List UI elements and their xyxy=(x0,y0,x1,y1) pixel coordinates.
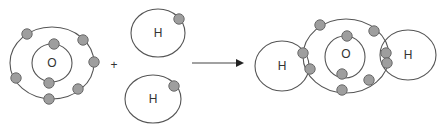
electron-icon xyxy=(381,48,391,58)
reactant-hydrogen-atom-2: H xyxy=(125,75,181,123)
hydrogen-nucleus-label: H xyxy=(278,59,287,73)
hydrogen-nucleus-label: H xyxy=(154,26,163,40)
hydrogen-nucleus-label: H xyxy=(404,48,413,62)
electron-icon xyxy=(305,64,315,74)
electron-icon xyxy=(382,58,392,68)
reaction-arrow xyxy=(192,59,244,67)
electron-icon xyxy=(342,31,352,41)
hydrogen-nucleus-label: H xyxy=(149,92,158,106)
electron-icon xyxy=(337,85,347,95)
electron-icon xyxy=(174,14,184,24)
electron-icon xyxy=(73,84,83,94)
electron-icon xyxy=(298,48,308,58)
electron-icon xyxy=(78,35,88,45)
electron-icon xyxy=(369,26,379,36)
electron-icon xyxy=(315,20,325,30)
electron-icon xyxy=(89,57,99,67)
oxygen-nucleus-label: O xyxy=(341,47,350,61)
arrow-head-icon xyxy=(236,59,244,67)
electron-icon xyxy=(11,73,21,83)
electron-icon xyxy=(364,75,374,85)
reactant-hydrogen-atom-1: H xyxy=(131,9,185,57)
electron-icon xyxy=(22,29,32,39)
product-water-molecule: H H O xyxy=(255,19,436,95)
electron-icon xyxy=(169,81,179,91)
plus-sign: + xyxy=(110,58,117,72)
reactant-oxygen-atom: O xyxy=(10,27,99,104)
electron-icon xyxy=(49,39,59,49)
water-formation-diagram: O + H H H H O xyxy=(0,0,444,131)
oxygen-nucleus-label: O xyxy=(47,56,56,70)
electron-icon xyxy=(44,94,54,104)
electron-icon xyxy=(337,69,347,79)
product-oxygen-atom: O xyxy=(298,19,392,95)
electron-icon xyxy=(44,78,54,88)
